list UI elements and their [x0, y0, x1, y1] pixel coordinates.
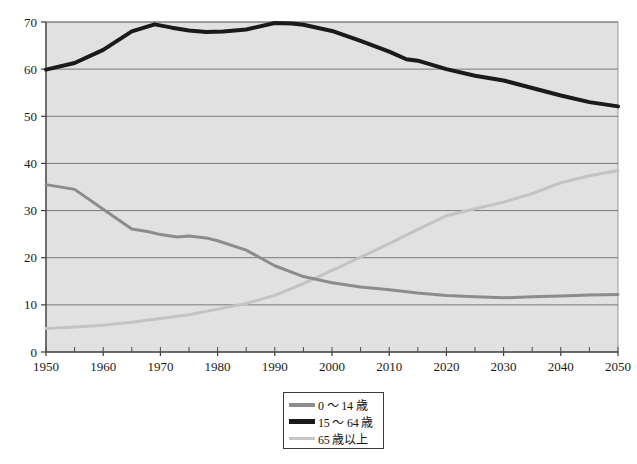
legend-swatch-15-64	[289, 419, 315, 424]
legend-swatch-65-plus	[289, 437, 315, 440]
legend-item-0-14: 0 ～ 14 歳	[289, 396, 378, 413]
svg-text:50: 50	[24, 109, 37, 124]
plot-background	[46, 22, 618, 352]
svg-text:1970: 1970	[147, 359, 173, 374]
svg-text:2010: 2010	[376, 359, 402, 374]
svg-text:60: 60	[24, 62, 37, 77]
y-axis-ticks	[41, 22, 46, 352]
chart-legend: 0 ～ 14 歳 15 ～ 64 歳 65 歳以上	[283, 392, 384, 449]
svg-text:10: 10	[24, 297, 37, 312]
x-minor-ticks	[46, 347, 618, 352]
svg-text:2030: 2030	[491, 359, 517, 374]
svg-text:2050: 2050	[605, 359, 631, 374]
population-age-structure-chart: 010203040506070 195019601970198019902000…	[0, 0, 637, 464]
legend-item-65-plus: 65 歳以上	[289, 430, 378, 447]
y-axis-tick-labels: 010203040506070	[24, 15, 37, 360]
svg-text:1960: 1960	[90, 359, 116, 374]
svg-text:30: 30	[24, 203, 37, 218]
svg-text:40: 40	[24, 156, 37, 171]
svg-text:0: 0	[31, 345, 38, 360]
legend-label-0-14: 0 ～ 14 歳	[318, 396, 367, 414]
svg-text:1950: 1950	[33, 359, 59, 374]
svg-text:70: 70	[24, 15, 37, 30]
x-axis-tick-labels: 1950196019701980199020002010202020302040…	[33, 359, 631, 374]
legend-label-65-plus: 65 歳以上	[318, 430, 368, 448]
legend-item-15-64: 15 ～ 64 歳	[289, 413, 378, 430]
legend-swatch-0-14	[289, 403, 315, 407]
svg-text:2020: 2020	[433, 359, 459, 374]
svg-text:1980: 1980	[205, 359, 231, 374]
legend-label-15-64: 15 ～ 64 歳	[318, 413, 373, 431]
svg-text:2000: 2000	[319, 359, 345, 374]
svg-text:20: 20	[24, 250, 37, 265]
svg-text:2040: 2040	[548, 359, 574, 374]
svg-text:1990: 1990	[262, 359, 288, 374]
